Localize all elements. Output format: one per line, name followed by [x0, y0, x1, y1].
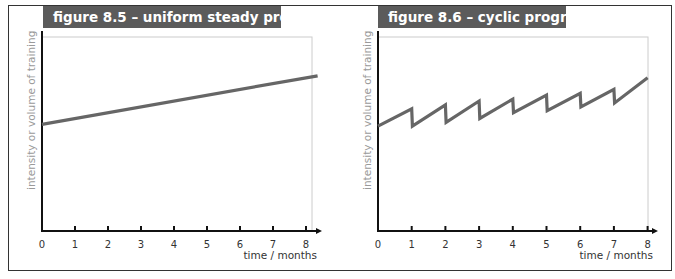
- x-tick-label: 0: [375, 239, 381, 250]
- y-axis-label: intensity or volume of training: [361, 31, 373, 190]
- data-line-cyclic: [378, 78, 648, 127]
- x-tick-label: 3: [476, 239, 482, 250]
- x-tick-label: 5: [543, 239, 549, 250]
- x-axis-arrow-icon: [652, 228, 658, 234]
- x-tick-label: 1: [409, 239, 415, 250]
- chart-cyclic-progression: 012345678 intensity or volume of trainin…: [0, 0, 675, 279]
- plot-area-border: [378, 37, 648, 231]
- x-axis-label: time / months: [580, 249, 654, 261]
- x-axis-ticks: 012345678: [375, 226, 651, 250]
- x-tick-label: 4: [510, 239, 516, 250]
- x-tick-label: 2: [442, 239, 448, 250]
